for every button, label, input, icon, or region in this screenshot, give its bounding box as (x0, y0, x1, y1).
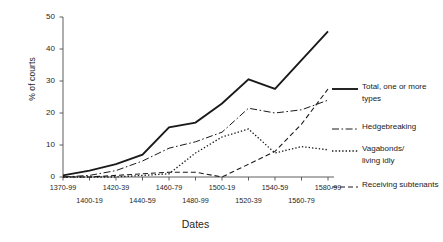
series-line-2 (63, 100, 328, 177)
x-tick-label: 1460-79 (143, 184, 195, 192)
legend-label: Receiving subtenants (362, 179, 443, 191)
x-tick-label: 1400-19 (64, 197, 116, 205)
x-tick-label: 1440-59 (117, 197, 169, 205)
dashed-line-swatch (332, 184, 358, 190)
series-line-1 (63, 31, 328, 175)
x-tick-label: 1420-39 (90, 184, 142, 192)
y-tick-label: 0 (29, 173, 55, 181)
legend-label: Vagabonds/ living idly (362, 143, 443, 166)
y-tick-label: 40 (29, 45, 55, 53)
axes (60, 17, 335, 181)
x-tick-label: 1500-19 (196, 184, 248, 192)
y-tick-label: 30 (29, 77, 55, 85)
x-tick-label: 1480-99 (170, 197, 222, 205)
y-tick-label: 50 (29, 13, 55, 21)
dotted-line-swatch (332, 148, 358, 154)
x-axis-title: Dates (63, 218, 328, 230)
x-tick-label: 1520-39 (223, 197, 275, 205)
x-tick-label: 1560-79 (276, 197, 328, 205)
series-line-4 (63, 89, 328, 177)
legend-label: Total, one or more types (362, 81, 443, 104)
series-lines (63, 31, 328, 177)
y-tick-label: 20 (29, 109, 55, 117)
x-tick-label: 1370-99 (37, 184, 89, 192)
solid-line-swatch (332, 86, 358, 92)
dash-dot-line-swatch (332, 126, 358, 132)
y-tick-label: 10 (29, 141, 55, 149)
x-tick-label: 1540-59 (249, 184, 301, 192)
series-line-3 (63, 129, 328, 177)
legend-label: Hedgebreaking (362, 121, 443, 133)
